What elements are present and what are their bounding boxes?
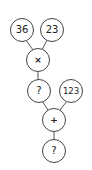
multiply-operator-node: × [26,48,50,72]
operand-node-36: 36 [10,18,34,42]
multiply-icon: × [34,56,42,65]
unknown-result-node-2: ? [42,139,66,163]
node-label: 23 [46,25,59,35]
question-mark-icon: ? [36,86,41,96]
operand-node-23: 23 [40,18,64,42]
operand-node-123: 123 [59,79,83,103]
plus-icon: + [50,116,58,125]
node-label: 36 [16,25,29,35]
unknown-result-node-1: ? [27,79,51,103]
node-label: 123 [63,87,79,96]
add-operator-node: + [42,108,66,132]
question-mark-icon: ? [51,146,56,156]
